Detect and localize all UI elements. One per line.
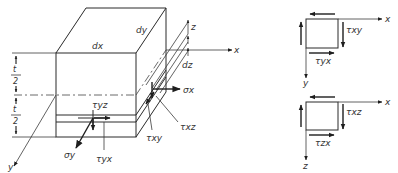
sigma-y-label: σy [64,150,76,160]
dx-label: dx [92,41,104,51]
inset-xy-x-label: x [384,14,391,24]
main-axes: x y z dz dx dy [7,20,240,172]
lamina-side-upper [136,70,166,115]
tau-yz-label: τyz [92,100,108,110]
z-axis-label: z [190,22,196,32]
inset-xy-square [306,19,338,48]
inset-xz-tau-zx: τzx [315,138,331,148]
t-half-bottom-den: 2 [13,117,18,126]
inset-xz-square [306,102,338,130]
tau-xy-leader [148,104,152,130]
plate-element-figure: x y z dz dx dy t 2 t 2 τyz σy τyx [0,0,398,173]
sigma-x-label: σx [183,85,195,95]
inset-xz: x z τxz τzx [301,97,391,171]
inset-xy-y-label: y [302,78,309,88]
y-axis-label: y [7,162,14,172]
inset-xy-tau-xy: τxy [346,25,363,35]
side-face-stresses: σx τxz τxy [146,82,196,143]
tau-xy-label: τxy [146,133,163,143]
inset-xy: x y τxy τyx [301,14,391,88]
tau-yx-label: τyx [96,154,113,164]
top-face [56,8,166,53]
front-face-stresses: τyz σy τyx [64,100,113,164]
inset-xz-tau-xz: τxz [346,107,362,117]
inset-xz-z-label: z [302,161,308,171]
slice-plane-1 [146,22,188,85]
dy-label: dy [136,25,148,35]
tau-xz-leader [156,96,178,122]
inset-xz-x-label: x [384,97,391,107]
inset-xy-tau-yx: τyx [315,56,332,66]
x-axis-label: x [233,45,240,55]
dz-label: dz [182,60,193,70]
tau-xz-label: τxz [180,122,196,132]
t-half-top-den: 2 [13,77,18,86]
mid-plane-side [136,50,166,95]
